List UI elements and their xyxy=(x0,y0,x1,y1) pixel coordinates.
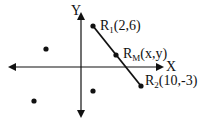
label-r2: R2(10,-3) xyxy=(145,74,197,90)
label-r2-name: R xyxy=(145,73,154,88)
label-rm-name: R xyxy=(123,46,132,61)
label-r2-coords: (10,-3) xyxy=(159,73,198,88)
x-axis-label: X xyxy=(166,60,176,74)
y-axis-label: Y xyxy=(71,4,81,18)
point-r1 xyxy=(90,23,95,28)
label-rm-coords: (x,y) xyxy=(140,46,167,61)
label-r1-name: R xyxy=(100,18,109,33)
point-r2 xyxy=(138,83,143,88)
label-r1: R1(2,6) xyxy=(100,19,141,35)
point-extra-3 xyxy=(90,88,95,93)
point-rm xyxy=(113,52,118,57)
point-extra-2 xyxy=(31,98,36,103)
label-r1-coords: (2,6) xyxy=(114,18,141,33)
label-rm: RM(x,y) xyxy=(123,47,167,63)
point-extra-1 xyxy=(43,46,48,51)
